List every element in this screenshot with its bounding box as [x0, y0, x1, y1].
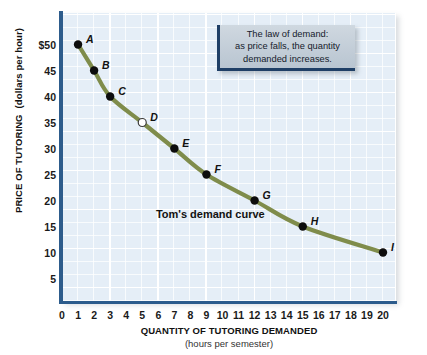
law-of-demand-callout: The law of demand: as price falls, the q…	[217, 25, 355, 71]
x-axis-line	[59, 301, 397, 305]
data-point-label-h: H	[311, 215, 319, 227]
x-axis-title: QUANTITY OF TUTORING DEMANDED	[62, 325, 396, 336]
data-point-label-i: I	[391, 241, 394, 253]
y-tick-label: 5	[22, 274, 56, 284]
y-axis-title-main: PRICE OF TUTORING	[13, 114, 24, 213]
x-tick-label: 20	[373, 309, 393, 321]
y-tick-label: 15	[22, 222, 56, 232]
demand-curve-figure: ABCDEFGHI Tom's demand curve $5045403530…	[0, 0, 427, 355]
y-tick-label: 10	[22, 248, 56, 258]
y-tick-label: 20	[22, 196, 56, 206]
x-axis-tick-labels: 01234567891011121314151617181920	[0, 309, 427, 323]
data-point-label-e: E	[182, 137, 189, 149]
y-axis-title: PRICE OF TUTORING(dollars per hour)	[13, 11, 24, 231]
callout-line-3: demanded increases.	[243, 54, 332, 64]
data-point-label-b: B	[102, 59, 110, 71]
data-point-label-a: A	[86, 33, 94, 45]
data-point-label-c: C	[118, 85, 126, 97]
data-point-label-d: D	[150, 111, 158, 123]
data-point-e	[170, 144, 178, 152]
y-tick-label: 40	[22, 92, 56, 102]
data-point-i	[379, 248, 387, 256]
y-axis-line	[59, 11, 63, 304]
x-axis-title-units: (hours per semester)	[62, 338, 396, 349]
y-tick-label: 30	[22, 144, 56, 154]
y-tick-label: 45	[22, 66, 56, 76]
data-point-b	[90, 66, 98, 74]
curve-name-label: Tom's demand curve	[156, 208, 265, 220]
callout-line-1: The law of demand:	[247, 29, 329, 39]
callout-line-2: as price falls, the quantity	[235, 41, 340, 51]
data-point-label-f: F	[214, 163, 220, 175]
callout-text: The law of demand: as price falls, the q…	[230, 28, 345, 66]
data-point-d	[138, 119, 146, 127]
data-point-f	[202, 170, 210, 178]
y-tick-label: 35	[22, 118, 56, 128]
data-point-a	[74, 40, 82, 48]
data-point-h	[299, 222, 307, 230]
data-point-label-g: G	[263, 189, 271, 201]
data-point-g	[250, 196, 258, 204]
demand-curve-line	[78, 45, 383, 253]
y-tick-label: $50	[22, 40, 56, 50]
y-axis-title-units: (dollars per hour)	[13, 28, 24, 108]
y-tick-label: 25	[22, 170, 56, 180]
data-point-c	[106, 92, 114, 100]
